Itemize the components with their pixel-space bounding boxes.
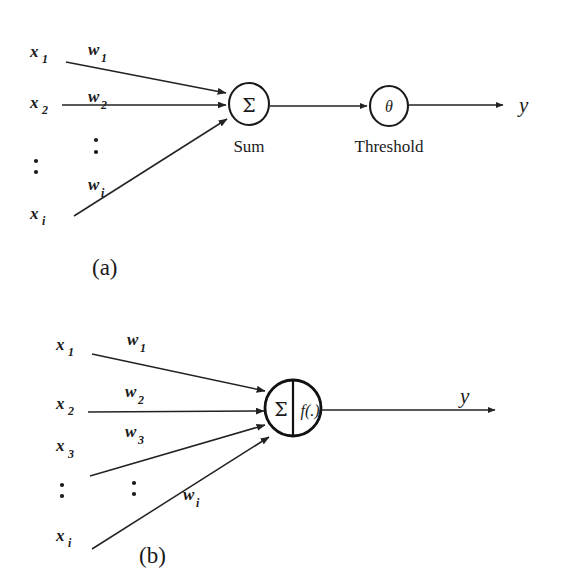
input-label-x3-sub: 3 [67, 447, 74, 461]
node-sum-activation-glyph-sum: Σ [274, 398, 287, 420]
input-label-xi-base: x [55, 526, 65, 545]
weight-label-w1-sub: 1 [101, 51, 107, 65]
node-sum: Σ Sum [229, 83, 269, 156]
node-threshold: θ Threshold [355, 86, 424, 156]
node-sum-glyph: Σ [242, 94, 255, 116]
panel-b-weight-w2: w 2 [125, 382, 144, 407]
panel-b-weight-w3: w 3 [125, 422, 144, 447]
panel-a-input-xi: x i [29, 204, 46, 228]
weight-label-wi-sub: i [196, 496, 200, 510]
panel-a-output-label-y: y [517, 93, 529, 117]
panel-a-input-x1: x 1 [29, 42, 48, 66]
panel-b-input-x1: x 1 [55, 335, 74, 359]
neuron-model-figure: x 1 x 2 x i w 1 w 2 [0, 0, 565, 587]
weight-label-w1-sub: 1 [140, 341, 146, 355]
input-label-x1-base: x [29, 42, 39, 61]
panel-b-connection-xi [92, 437, 269, 549]
weight-label-w2-base: w [125, 382, 137, 401]
weight-label-wi-base: w [88, 175, 100, 194]
panel-b-output-label-y: y [458, 384, 470, 408]
weight-label-w2-base: w [88, 87, 100, 106]
panel-a-weight-w2: w 2 [88, 87, 107, 112]
input-label-x1-sub: 1 [68, 345, 74, 359]
node-threshold-glyph: θ [385, 98, 393, 115]
panel-b-connection-x3 [90, 425, 265, 476]
input-label-x1-sub: 1 [42, 52, 48, 66]
panel-a-input-x2: x 2 [29, 93, 48, 117]
panel-a-connection-xi [74, 119, 227, 216]
node-sum-activation-glyph-function: f(.) [300, 402, 319, 420]
panel-b-input-x2: x 2 [55, 394, 74, 418]
node-threshold-caption: Threshold [355, 137, 424, 156]
panel-a: x 1 x 2 x i w 1 w 2 [29, 40, 529, 280]
weight-label-w1-base: w [127, 330, 139, 349]
input-label-xi-sub: i [42, 214, 46, 228]
panel-b: x 1 x 2 x 3 x i w 1 [55, 330, 495, 568]
input-label-x3-base: x [55, 436, 65, 455]
panel-b-input-x3: x 3 [55, 436, 74, 461]
input-label-x2-base: x [55, 394, 65, 413]
panel-b-input-ellipsis-icon [60, 483, 64, 498]
panel-b-weight-wi: w i [183, 485, 200, 510]
panel-a-input-ellipsis-icon [34, 159, 38, 174]
weight-label-w3-base: w [125, 422, 137, 441]
panel-b-input-xi: x i [55, 526, 72, 550]
node-sum-activation: Σ f(.) [265, 380, 321, 436]
input-label-x2-sub: 2 [41, 103, 48, 117]
input-label-xi-sub: i [68, 536, 72, 550]
weight-label-w3-sub: 3 [137, 433, 144, 447]
panel-b-connection-x2 [88, 411, 264, 412]
input-label-x2-base: x [29, 93, 39, 112]
weight-label-w2-sub: 2 [137, 393, 144, 407]
input-label-x1-base: x [55, 335, 65, 354]
panel-b-label: (b) [139, 543, 166, 568]
figure-canvas: x 1 x 2 x i w 1 w 2 [0, 0, 565, 587]
panel-a-weight-ellipsis-icon [94, 138, 98, 154]
panel-b-connection-x1 [92, 354, 265, 391]
panel-a-label: (a) [92, 255, 118, 280]
input-label-xi-base: x [29, 204, 39, 223]
node-sum-caption: Sum [233, 137, 264, 156]
input-label-x2-sub: 2 [67, 404, 74, 418]
panel-b-weight-ellipsis-icon [132, 481, 136, 496]
panel-a-weight-wi: w i [88, 175, 105, 200]
weight-label-w1-base: w [88, 40, 100, 59]
panel-b-weight-w1: w 1 [127, 330, 146, 355]
panel-a-weight-w1: w 1 [88, 40, 107, 65]
